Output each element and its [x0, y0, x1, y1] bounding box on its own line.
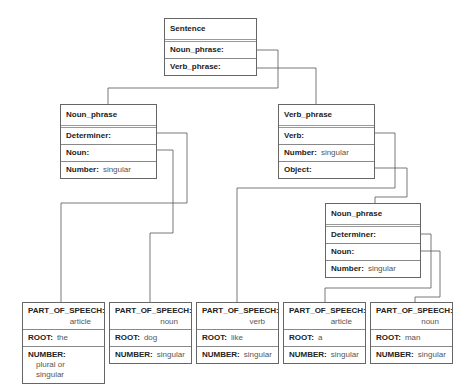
word-frame-like: PART_OF_SPEECH:verb ROOT:like NUMBER:sin…	[196, 302, 279, 364]
verb-phrase-frame: Verb_phrase Verb: Number:singular Object…	[278, 104, 375, 179]
slot-noun: Noun:	[61, 144, 156, 161]
slot-label: PART_OF_SPEECH:	[28, 306, 105, 315]
slot-value: article	[289, 317, 352, 327]
slot-label: ROOT:	[289, 333, 314, 342]
slot-value-line2: singular	[36, 370, 64, 379]
frame-title: Verb_phrase	[279, 105, 374, 125]
slot-number: NUMBER:singular	[371, 346, 452, 363]
slot-part-of-speech: PART_OF_SPEECH:noun	[110, 303, 191, 329]
slot-value: plural or	[36, 360, 65, 369]
slot-part-of-speech: PART_OF_SPEECH:verb	[197, 303, 278, 329]
slot-label: ROOT:	[376, 333, 401, 342]
slot-value: noun	[115, 317, 178, 327]
slot-label: PART_OF_SPEECH:	[202, 306, 279, 315]
slot-number: NUMBER:singular	[197, 346, 278, 363]
slot-label: ROOT:	[115, 333, 140, 342]
slot-part-of-speech: PART_OF_SPEECH:article	[23, 303, 104, 329]
slot-part-of-speech: PART_OF_SPEECH:noun	[371, 303, 452, 329]
slot-label: NUMBER:	[376, 350, 414, 359]
sentence-frame: Sentence Noun_phrase: Verb_phrase:	[164, 18, 257, 76]
slot-root: ROOT:a	[284, 329, 365, 346]
slot-root: ROOT:like	[197, 329, 278, 346]
slot-label: Number:	[331, 264, 364, 273]
slot-label: NUMBER:	[115, 350, 153, 359]
slot-label: NUMBER:	[289, 350, 327, 359]
slot-label: PART_OF_SPEECH:	[115, 306, 192, 315]
slot-number: Number:singular	[326, 260, 420, 277]
frame-title: Noun_phrase	[61, 105, 156, 125]
slot-value: man	[405, 333, 421, 342]
slot-label: Number:	[66, 165, 99, 174]
slot-part-of-speech: PART_OF_SPEECH:article	[284, 303, 365, 329]
slot-value: singular	[103, 165, 131, 174]
slot-value: singular	[418, 350, 446, 359]
slot-value: article	[28, 317, 91, 327]
slot-noun: Noun:	[326, 243, 420, 260]
slot-number: NUMBER:plural orsingular	[23, 346, 104, 383]
word-frame-a: PART_OF_SPEECH:article ROOT:a NUMBER:sin…	[283, 302, 366, 364]
slot-value: noun	[376, 317, 439, 327]
slot-value: singular	[331, 350, 359, 359]
slot-value: singular	[244, 350, 272, 359]
slot-number: NUMBER:singular	[110, 346, 191, 363]
noun-phrase-frame-2: Noun_phrase Determiner: Noun: Number:sin…	[325, 203, 421, 278]
slot-label: Number:	[284, 148, 317, 157]
word-frame-man: PART_OF_SPEECH:noun ROOT:man NUMBER:sing…	[370, 302, 453, 364]
slot-value: singular	[157, 350, 185, 359]
slot-number: Number:singular	[279, 144, 374, 161]
slot-root: ROOT:man	[371, 329, 452, 346]
slot-label: ROOT:	[28, 333, 53, 342]
word-frame-the: PART_OF_SPEECH:article ROOT:the NUMBER:p…	[22, 302, 105, 384]
slot-determiner: Determiner:	[326, 224, 420, 243]
slot-value: singular	[321, 148, 349, 157]
slot-label: NUMBER:	[202, 350, 240, 359]
slot-label: PART_OF_SPEECH:	[289, 306, 366, 315]
slot-value: like	[231, 333, 243, 342]
slot-root: ROOT:dog	[110, 329, 191, 346]
noun-phrase-frame-1: Noun_phrase Determiner: Noun: Number:sin…	[60, 104, 157, 179]
slot-label: PART_OF_SPEECH:	[376, 306, 453, 315]
slot-determiner: Determiner:	[61, 125, 156, 144]
slot-object: Object:	[279, 161, 374, 178]
slot-verb-phrase: Verb_phrase:	[165, 58, 256, 75]
slot-value: verb	[202, 317, 265, 327]
slot-value: a	[318, 333, 322, 342]
slot-value: singular	[368, 264, 396, 273]
word-frame-dog: PART_OF_SPEECH:noun ROOT:dog NUMBER:sing…	[109, 302, 192, 364]
frame-title: Sentence	[165, 19, 256, 39]
slot-number: Number:singular	[61, 161, 156, 178]
frame-title: Noun_phrase	[326, 204, 420, 224]
slot-value: dog	[144, 333, 157, 342]
slot-root: ROOT:the	[23, 329, 104, 346]
slot-number: NUMBER:singular	[284, 346, 365, 363]
slot-label: ROOT:	[202, 333, 227, 342]
slot-noun-phrase: Noun_phrase:	[165, 39, 256, 58]
slot-verb: Verb:	[279, 125, 374, 144]
slot-label: NUMBER:	[28, 350, 66, 359]
slot-value: the	[57, 333, 68, 342]
